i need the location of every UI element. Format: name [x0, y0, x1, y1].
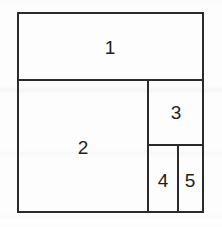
region-3-label: 3 [171, 103, 182, 122]
diagram-canvas: 12345 [0, 0, 222, 227]
region-5-label: 5 [185, 171, 196, 190]
region-4-label: 4 [158, 171, 169, 190]
divider-lines [18, 80, 203, 212]
partitioned-rectangle-figure [0, 0, 222, 227]
region-2-label: 2 [78, 138, 89, 157]
region-1-label: 1 [105, 38, 116, 57]
